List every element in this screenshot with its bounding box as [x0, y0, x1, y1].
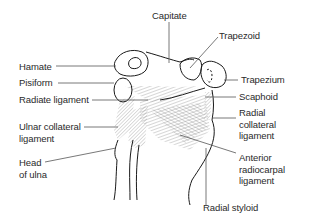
- label-trapezoid: Trapezoid: [219, 30, 260, 42]
- hamate-bone: [114, 50, 148, 76]
- label-anterior-radiocarpal-ligament: Anterior radiocarpal ligament: [239, 152, 285, 187]
- trapezium-bone: [201, 61, 226, 87]
- label-scaphoid: Scaphoid: [239, 91, 278, 103]
- wrist-ligament-diagram: Capitate Trapezoid Hamate Trapezium Pisi…: [0, 0, 315, 224]
- radial-collateral-ligament-shape: [204, 92, 212, 120]
- label-radial-styloid: Radial styloid: [203, 202, 258, 214]
- label-hamate: Hamate: [19, 61, 52, 73]
- label-pisiform: Pisiform: [19, 77, 53, 89]
- label-radiate-ligament: Radiate ligament: [19, 94, 89, 106]
- ulna-bone: [114, 140, 118, 200]
- label-head-of-ulna: Head of ulna: [19, 157, 47, 180]
- label-ulnar-collateral-ligament: Ulnar collateral ligament: [19, 121, 81, 144]
- trapezoid-bone: [180, 58, 202, 80]
- anterior-radiocarpal-ligament-shape: [140, 95, 210, 150]
- label-capitate: Capitate: [152, 10, 187, 22]
- pisiform-bone: [114, 78, 132, 102]
- label-radial-collateral-ligament: Radial collateral ligament: [239, 107, 276, 142]
- label-trapezium: Trapezium: [241, 74, 285, 86]
- capitate-bone: [146, 52, 194, 62]
